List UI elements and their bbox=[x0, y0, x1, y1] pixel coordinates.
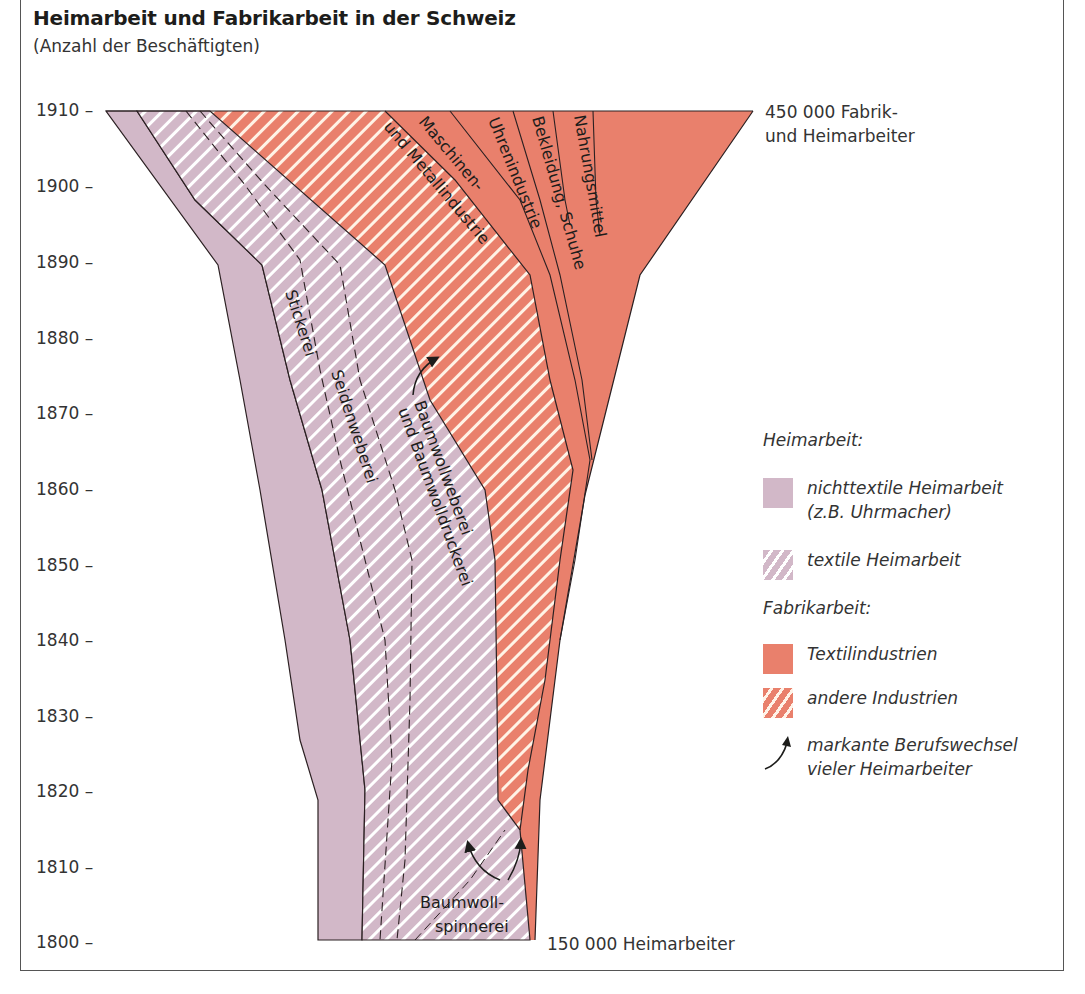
label-spinnerei: spinnerei bbox=[435, 917, 509, 936]
annotation-total-1910-line2: und Heimarbeiter bbox=[765, 124, 915, 148]
legend-heading-fabrikarbeit: Fabrikarbeit: bbox=[763, 598, 871, 618]
legend-item-textilindustrien: Textilindustrien bbox=[763, 642, 937, 674]
legend-heading-heimarbeit: Heimarbeit: bbox=[763, 430, 863, 450]
legend-item-textile: textile Heimarbeit bbox=[763, 548, 961, 580]
legend-label-nichttextile-line1: nichttextile Heimarbeit bbox=[807, 476, 1003, 500]
legend-label-nichttextile-line2: (z.B. Uhrmacher) bbox=[807, 500, 1003, 524]
legend-swatch-andere-industrien bbox=[763, 688, 793, 718]
annotation-total-1910-line1: 450 000 Fabrik- bbox=[765, 100, 915, 124]
legend-label-textile: textile Heimarbeit bbox=[807, 548, 961, 572]
legend-item-berufswechsel: markante Berufswechsel vieler Heimarbeit… bbox=[763, 733, 1018, 781]
legend-label-textilindustrien: Textilindustrien bbox=[807, 642, 937, 666]
legend-item-andere-industrien: andere Industrien bbox=[763, 686, 958, 718]
legend-label-berufswechsel-line2: vieler Heimarbeiter bbox=[807, 757, 1018, 781]
legend-swatch-textilindustrien bbox=[763, 644, 793, 674]
legend-label-berufswechsel: markante Berufswechsel vieler Heimarbeit… bbox=[807, 733, 1018, 781]
legend-label-berufswechsel-line1: markante Berufswechsel bbox=[807, 733, 1018, 757]
legend-label-andere-industrien: andere Industrien bbox=[807, 686, 958, 710]
annotation-total-1910: 450 000 Fabrik- und Heimarbeiter bbox=[765, 100, 915, 148]
legend-item-nichttextile: nichttextile Heimarbeit (z.B. Uhrmacher) bbox=[763, 476, 1003, 524]
label-baumwoll: Baumwoll- bbox=[420, 893, 504, 912]
legend-swatch-nichttextile bbox=[763, 478, 793, 508]
legend-swatch-textile bbox=[763, 550, 793, 580]
annotation-total-1800: 150 000 Heimarbeiter bbox=[547, 932, 735, 956]
legend-label-nichttextile: nichttextile Heimarbeit (z.B. Uhrmacher) bbox=[807, 476, 1003, 524]
curved-arrow-icon bbox=[763, 733, 793, 775]
